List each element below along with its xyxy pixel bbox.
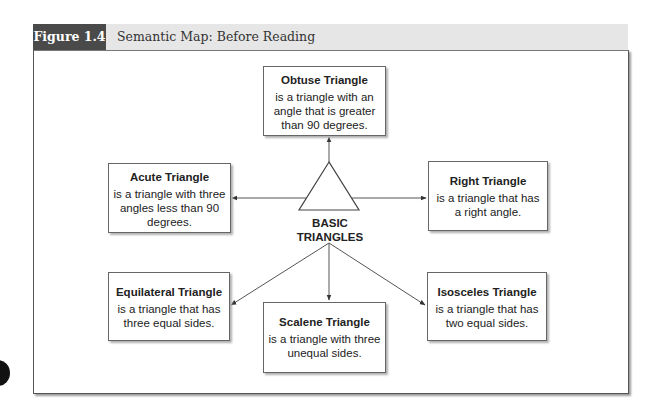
node-title: Equilateral Triangle <box>109 286 229 298</box>
binder-hole-mark <box>0 360 10 386</box>
node-scalene-triangle: Scalene Triangle is a triangle with thre… <box>263 302 386 373</box>
node-title: Obtuse Triangle <box>264 74 385 86</box>
node-description: is a triangle with an angle that is grea… <box>264 90 385 132</box>
node-equilateral-triangle: Equilateral Triangle is a triangle that … <box>108 272 230 341</box>
figure-title: Semantic Map: Before Reading <box>117 24 315 50</box>
node-right-triangle: Right Triangle is a triangle that has a … <box>428 161 548 231</box>
node-acute-triangle: Acute Triangle is a triangle with three … <box>108 163 231 233</box>
node-title: Scalene Triangle <box>264 316 385 328</box>
node-obtuse-triangle: Obtuse Triangle is a triangle with an an… <box>263 66 386 136</box>
node-description: is a triangle that has two equal sides. <box>428 302 546 330</box>
figure-number-label: Figure 1.4 <box>33 24 106 50</box>
central-concept-label: BASIC TRIANGLES <box>290 216 370 244</box>
node-title: Right Triangle <box>429 175 547 187</box>
central-concept-line1: BASIC <box>290 216 370 230</box>
node-description: is a triangle that has three equal sides… <box>109 302 229 330</box>
central-concept-line2: TRIANGLES <box>290 230 370 244</box>
node-description: is a triangle with three angles less tha… <box>109 187 230 229</box>
node-description: is a triangle that has a right angle. <box>429 191 547 219</box>
node-description: is a triangle with three unequal sides. <box>264 332 385 360</box>
node-title: Acute Triangle <box>109 171 230 183</box>
node-title: Isosceles Triangle <box>428 286 546 298</box>
node-isosceles-triangle: Isosceles Triangle is a triangle that ha… <box>427 272 547 341</box>
